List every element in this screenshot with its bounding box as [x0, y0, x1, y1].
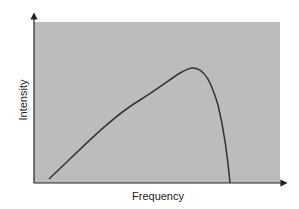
y-axis-label: Intensity — [17, 80, 29, 121]
spectrum-curve — [49, 68, 230, 183]
x-axis-label: Frequency — [132, 190, 184, 202]
chart-svg — [0, 0, 299, 209]
